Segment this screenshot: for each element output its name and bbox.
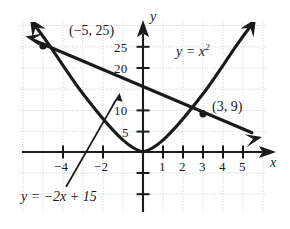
y-tick-label-10: 10: [114, 104, 127, 117]
x-tick-label-5: 5: [239, 160, 246, 173]
point-label-minus5-25: (−5, 25): [69, 24, 114, 38]
x-tick-label-2: 2: [179, 160, 186, 173]
y-tick-label-5: 5: [122, 126, 129, 139]
line-arrow-right: [245, 134, 263, 147]
x-tick-label-4: 4: [219, 160, 226, 173]
line-equation-label: y = −2x + 15: [21, 190, 97, 204]
x-tick-label-minus4: −4: [54, 160, 68, 173]
parabola-exponent: 2: [205, 42, 210, 52]
point-dot-3-9: [199, 110, 206, 117]
label-leader-line: [66, 100, 116, 187]
point-label-3-9: (3, 9): [212, 100, 242, 114]
parabola-equation-label: y = x2: [176, 45, 210, 59]
y-axis-label: y: [150, 10, 156, 24]
point-dot-minus5-25: [39, 42, 46, 49]
x-axis-label: x: [270, 156, 276, 170]
x-tick-label-minus2: −2: [94, 160, 108, 173]
parabola-equation-text: y = x: [176, 44, 205, 59]
y-tick-label-20: 20: [114, 62, 127, 75]
x-axis: [22, 146, 276, 159]
y-axis: [137, 20, 150, 212]
coordinate-graph-figure: y x 25 20 10 5 −4 −2 1 2 3 4 5 (−5, 25) …: [0, 0, 290, 229]
x-tick-label-3: 3: [199, 160, 206, 173]
x-tick-label-1: 1: [159, 160, 166, 173]
y-tick-label-25: 25: [114, 41, 127, 54]
